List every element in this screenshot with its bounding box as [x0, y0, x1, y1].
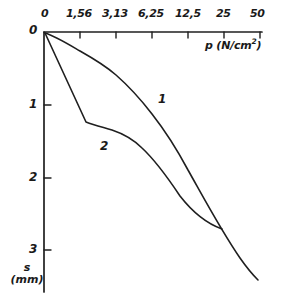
x-tick-label-4: 12,5 — [175, 8, 201, 19]
x-axis-title-close: ) — [257, 39, 262, 52]
curve-2-label: 2 — [100, 140, 108, 152]
curve-2-path — [45, 33, 222, 229]
x-axis-ticks — [80, 32, 260, 38]
x-axis-title-base: p (N/cm — [205, 39, 252, 52]
y-tick-label-2: 2 — [29, 171, 37, 183]
x-tick-label-5: 25 — [216, 8, 231, 19]
y-tick-label-3: 3 — [29, 243, 37, 255]
x-tick-label-3: 6,25 — [138, 8, 164, 19]
curve-1-path — [45, 33, 258, 280]
y-axis-title: s (mm) — [10, 262, 44, 285]
y-tick-label-1: 1 — [29, 98, 37, 110]
settlement-pressure-chart: 0 0 1,56 3,13 6,25 12,5 25 50 1 2 3 p (N… — [0, 0, 306, 299]
x-tick-label-2: 3,13 — [102, 8, 128, 19]
x-tick-label-0: 0 — [41, 8, 48, 19]
y-axis-title-unit: (mm) — [10, 274, 44, 285]
x-tick-label-1: 1,56 — [66, 8, 92, 19]
origin-label-y: 0 — [29, 24, 37, 36]
x-axis-title: p (N/cm2) — [205, 40, 261, 51]
y-axis-ticks — [44, 105, 51, 250]
curve-1-label: 1 — [158, 93, 166, 105]
x-tick-label-6: 50 — [250, 8, 265, 19]
